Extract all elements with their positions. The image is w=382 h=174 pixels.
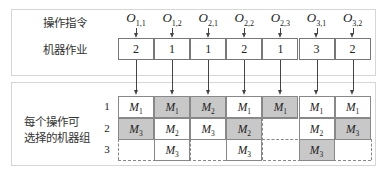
machine-option-cell: M2 [299, 118, 335, 140]
machine-assignment-label: 机器作业 [43, 41, 87, 57]
machine-assignment-cell: 2 [226, 38, 262, 60]
machine-option-cell: M1 [154, 96, 190, 118]
arrow-down-icon [350, 90, 354, 95]
machine-option-cell: M3 [118, 118, 154, 140]
operation-label: O3,1 [299, 10, 335, 28]
machine-option-cell: M3 [299, 139, 335, 161]
row-number: 2 [101, 122, 113, 134]
machine-assignment-cell: 3 [299, 38, 335, 60]
arrow-line [136, 60, 137, 91]
empty-cell [262, 118, 298, 140]
machine-assignment-cell: 2 [118, 38, 154, 60]
arrow-line [244, 60, 245, 91]
arrow-down-icon [134, 90, 138, 95]
row-number: 1 [101, 100, 113, 112]
arrow-line [280, 60, 281, 91]
machine-option-cell: M3 [335, 118, 371, 140]
dashed-border [262, 118, 263, 160]
operation-label: O1,1 [118, 10, 154, 28]
row-number: 3 [101, 143, 113, 155]
dashed-border [118, 139, 119, 160]
machine-option-cell: M3 [154, 139, 190, 161]
arrow-down-icon [242, 90, 246, 95]
machine-option-cell: M3 [190, 118, 226, 140]
arrow-line [172, 60, 173, 91]
arrow-down-icon [206, 90, 210, 95]
machine-assignment-cell: 1 [190, 38, 226, 60]
machine-assignment-cell: 1 [262, 38, 298, 60]
operation-label: O2,2 [226, 10, 262, 28]
arrow-line [353, 60, 354, 91]
operation-label: O2,3 [262, 10, 298, 28]
operation-label: O2,1 [190, 10, 226, 28]
machine-option-cell: M2 [226, 118, 262, 140]
machine-option-cell: M1 [299, 96, 335, 118]
operation-sequence-label: 操作指令 [43, 14, 87, 30]
operation-label: O1,2 [154, 10, 190, 28]
operation-label: O3,2 [335, 10, 371, 28]
arrow-line [208, 60, 209, 91]
arrow-down-icon [278, 90, 282, 95]
arrow-down-icon [170, 90, 174, 95]
machine-assignment-cell: 2 [335, 38, 371, 60]
dashed-border [371, 139, 372, 160]
machine-option-cell: M2 [190, 96, 226, 118]
machine-group-label-line1: 每个操作可 [24, 113, 79, 129]
machine-assignment-cell: 1 [154, 38, 190, 60]
machine-group-label-line2: 选择的机器组 [24, 129, 90, 145]
machine-option-cell: M1 [226, 96, 262, 118]
machine-option-cell: M1 [335, 96, 371, 118]
arrow-line [317, 60, 318, 91]
machine-option-cell: M2 [154, 118, 190, 140]
arrow-down-icon [314, 90, 318, 95]
machine-option-cell: M1 [118, 96, 154, 118]
dashed-border [190, 139, 191, 160]
machine-option-cell: M1 [262, 96, 298, 118]
dashed-border [118, 160, 371, 161]
machine-option-cell: M3 [226, 139, 262, 161]
